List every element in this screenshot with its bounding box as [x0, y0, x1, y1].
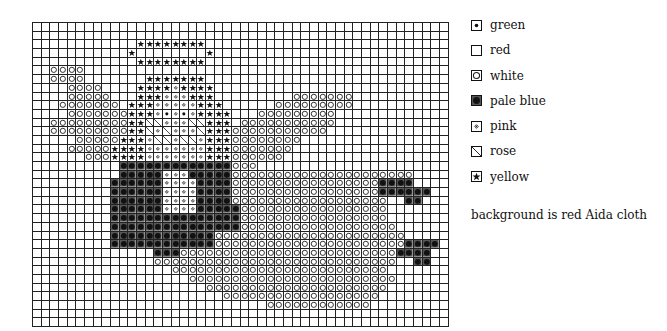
- pale-blue-stitch: [223, 171, 232, 180]
- white-stitch: [232, 258, 241, 267]
- empty-cell: [50, 284, 59, 293]
- empty-cell: [85, 58, 94, 67]
- pink-stitch: [189, 197, 198, 206]
- pink-stitch: [163, 197, 172, 206]
- empty-cell: [59, 223, 68, 232]
- empty-cell: [163, 266, 172, 275]
- yellow-stitch: [215, 127, 224, 136]
- empty-cell: [388, 162, 397, 171]
- white-stitch: [284, 223, 293, 232]
- empty-cell: [353, 318, 362, 327]
- empty-cell: [111, 66, 120, 75]
- empty-cell: [431, 275, 440, 284]
- pale-blue-stitch: [154, 179, 163, 188]
- pink-stitch: [146, 136, 155, 145]
- legend-item-yellow: yellow: [471, 171, 546, 183]
- white-stitch: [258, 275, 267, 284]
- empty-cell: [440, 284, 449, 293]
- white-stitch: [310, 197, 319, 206]
- white-stitch: [275, 119, 284, 128]
- white-stitch: [327, 223, 336, 232]
- white-stitch: [327, 232, 336, 241]
- white-stitch: [50, 127, 59, 136]
- yellow-stitch: [172, 58, 181, 67]
- empty-cell: [76, 197, 85, 206]
- empty-cell: [327, 162, 336, 171]
- empty-cell: [59, 93, 68, 102]
- empty-cell: [397, 32, 406, 41]
- pale-blue-stitch: [163, 232, 172, 241]
- empty-cell: [414, 58, 423, 67]
- empty-cell: [241, 49, 250, 58]
- white-stitch: [94, 127, 103, 136]
- white-stitch: [50, 66, 59, 75]
- empty-cell: [241, 93, 250, 102]
- empty-cell: [163, 292, 172, 301]
- empty-cell: [146, 301, 155, 310]
- empty-cell: [440, 249, 449, 258]
- pale-blue-stitch: [232, 205, 241, 214]
- empty-cell: [102, 188, 111, 197]
- empty-cell: [440, 223, 449, 232]
- yellow-stitch: [154, 93, 163, 102]
- empty-cell: [423, 66, 432, 75]
- white-stitch: [215, 266, 224, 275]
- empty-cell: [85, 66, 94, 75]
- empty-cell: [197, 66, 206, 75]
- pale-blue-stitch: [414, 249, 423, 258]
- empty-cell: [42, 258, 51, 267]
- empty-cell: [388, 93, 397, 102]
- empty-cell: [293, 32, 302, 41]
- white-stitch: [258, 127, 267, 136]
- empty-cell: [267, 49, 276, 58]
- empty-cell: [42, 153, 51, 162]
- white-stitch: [319, 127, 328, 136]
- empty-cell: [94, 310, 103, 319]
- white-stitch: [249, 292, 258, 301]
- pale-blue-stitch: [405, 240, 414, 249]
- empty-cell: [223, 318, 232, 327]
- pale-blue-stitch: [223, 197, 232, 206]
- pale-blue-stitch: [154, 205, 163, 214]
- pale-blue-stitch: [120, 197, 129, 206]
- white-stitch: [301, 301, 310, 310]
- empty-cell: [102, 179, 111, 188]
- white-stitch: [353, 214, 362, 223]
- white-stitch: [241, 266, 250, 275]
- white-stitch: [206, 275, 215, 284]
- white-stitch: [249, 223, 258, 232]
- pink-stitch: [163, 153, 172, 162]
- white-stitch: [258, 232, 267, 241]
- white-stitch: [345, 205, 354, 214]
- white-stitch: [223, 258, 232, 267]
- white-stitch: [241, 205, 250, 214]
- white-stitch: [85, 93, 94, 102]
- white-stitch: [249, 275, 258, 284]
- empty-cell: [388, 101, 397, 110]
- empty-cell: [397, 101, 406, 110]
- white-stitch: [388, 171, 397, 180]
- empty-cell: [258, 84, 267, 93]
- empty-cell: [146, 49, 155, 58]
- empty-cell: [310, 75, 319, 84]
- empty-cell: [249, 66, 258, 75]
- empty-cell: [223, 66, 232, 75]
- pale-blue-stitch: [137, 205, 146, 214]
- empty-cell: [102, 58, 111, 67]
- white-stitch: [301, 223, 310, 232]
- white-stitch: [301, 110, 310, 119]
- white-stitch: [345, 232, 354, 241]
- white-stitch: [284, 171, 293, 180]
- empty-cell: [232, 310, 241, 319]
- empty-cell: [33, 301, 42, 310]
- empty-cell: [215, 310, 224, 319]
- empty-cell: [414, 205, 423, 214]
- white-stitch: [310, 275, 319, 284]
- filled-dot-icon: [471, 95, 482, 106]
- empty-cell: [345, 23, 354, 32]
- empty-cell: [423, 58, 432, 67]
- rose-stitch: [163, 127, 172, 136]
- empty-cell: [371, 93, 380, 102]
- empty-cell: [388, 266, 397, 275]
- white-stitch: [258, 179, 267, 188]
